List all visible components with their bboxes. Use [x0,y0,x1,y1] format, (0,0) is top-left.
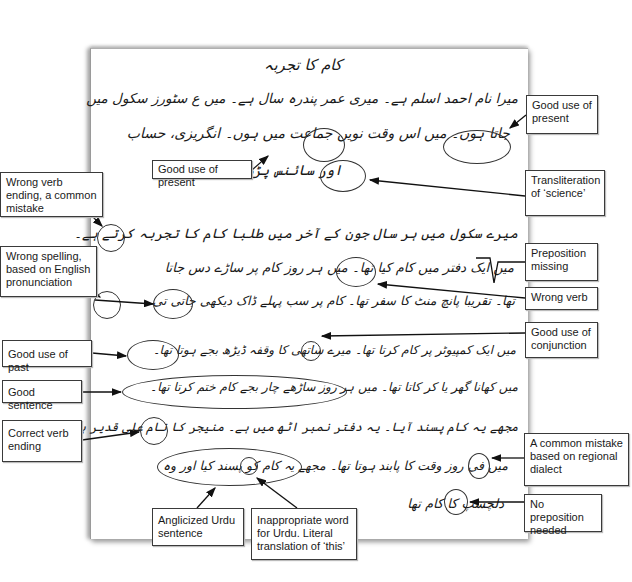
note-preposition-missing: Preposition missing [525,243,598,281]
note-wrong-verb-ending: Wrong verb ending, a common mistake [0,172,103,217]
essay-title: کام کا تجربہ [264,56,342,74]
note-anglicized-urdu: Anglicized Urdu sentence [152,508,244,546]
essay-line-7: میں ایک کمپیوٹر پر کام کرتا تھا۔ میرے سا… [153,343,516,357]
circle-anglicized [157,448,302,486]
note-good-sentence: Good sentence [2,380,82,403]
note-transliteration: Transliteration of ‘science’ [525,170,605,216]
circle-jata-hoon [443,130,511,164]
note-wrong-spelling: Wrong spelling, based on English pronunc… [0,246,97,297]
circle-hai [140,417,168,445]
circle-jamaat [303,128,345,162]
circle-fi [468,453,490,479]
circle-ti [93,291,121,319]
circle-good-sentence [122,375,347,409]
circle-hota-tha [127,340,179,370]
note-good-use-of-present-inline: Good use of present [152,160,252,179]
circle-yeh [240,457,258,475]
circle-ka-2 [444,489,468,515]
note-wrong-verb: Wrong verb [525,287,598,310]
note-good-use-of-present: Good use of present [526,95,598,134]
circle-ka [301,341,321,361]
note-inappropriate-word: Inappropriate word for Urdu. Literal tra… [251,508,357,560]
note-correct-verb-ending: Correct verb ending [2,420,82,462]
essay-line-4: میرے سکول میں ہر سال جون کے آخر میں طلبا… [74,225,518,241]
circle-science [320,160,366,192]
essay-line-1: میرا نام احمد اسلم ہے۔ میری عمر پندرہ سا… [86,90,518,106]
circle-verb-ending [97,224,125,252]
circle-kia-tha [336,257,376,287]
note-good-use-of-past: Good use of past [2,340,92,367]
note-regional-dialect: A common mistake based on regional diale… [524,433,629,486]
essay-line-9: مجھے یہ کام پسند آیا۔ یہ دفتر نمبر اٹھ م… [65,420,518,434]
essay-line-6: تھا۔ تقریبا پانچ منٹ کا سفر تھا۔ کام پر … [146,293,515,308]
note-no-preposition-needed: No preposition needed [524,494,602,532]
note-good-use-of-conjunction: Good use of conjunction [525,322,598,358]
circle-dekhi [153,289,193,319]
